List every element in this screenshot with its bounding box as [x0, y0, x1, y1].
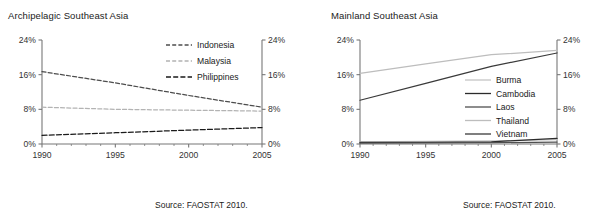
legend-label-cambodia: Cambodia	[496, 89, 535, 99]
chart-title-right: Mainland Southeast Asia	[331, 10, 438, 21]
x-tick-label: 1990	[32, 150, 51, 160]
plot-area-right: 0%0%8%8%16%16%24%24%1990199520002005Burm…	[305, 32, 609, 162]
legend-label-philippines: Philippines	[197, 72, 239, 82]
y-tick-label-left: 24%	[337, 35, 355, 45]
legend-label-malaysia: Malaysia	[197, 56, 231, 66]
legend-label-laos: Laos	[496, 102, 515, 112]
x-tick-label: 1995	[416, 150, 435, 160]
source-note-right: Source: FAOSTAT 2010.	[463, 200, 556, 210]
y-tick-label-right: 16%	[268, 70, 286, 80]
plot-area-left: 0%0%8%8%16%16%24%24%1990199520002005Indo…	[0, 32, 304, 162]
y-tick-label-left: 0%	[24, 139, 37, 149]
x-tick-label: 1995	[106, 150, 125, 160]
x-tick-label: 2000	[482, 150, 501, 160]
y-tick-label-left: 16%	[337, 70, 355, 80]
legend-label-thailand: Thailand	[496, 116, 529, 126]
line-chart-left: 0%0%8%8%16%16%24%24%1990199520002005Indo…	[0, 32, 304, 162]
legend-label-vietnam: Vietnam	[496, 129, 527, 139]
y-tick-label-left: 0%	[342, 139, 355, 149]
y-tick-label-right: 8%	[268, 104, 281, 114]
y-tick-label-right: 24%	[563, 35, 581, 45]
y-tick-label-left: 8%	[342, 104, 355, 114]
chart-panel-mainland: Mainland Southeast Asia 0%0%8%8%16%16%24…	[305, 0, 609, 218]
source-note-left: Source: FAOSTAT 2010.	[155, 200, 248, 210]
x-tick-label: 2005	[547, 150, 566, 160]
y-tick-label-right: 24%	[268, 35, 286, 45]
x-tick-label: 2005	[252, 150, 271, 160]
y-tick-label-left: 8%	[24, 104, 37, 114]
x-tick-label: 2000	[179, 150, 198, 160]
x-tick-label: 1990	[350, 150, 369, 160]
figure-container: Archipelagic Southeast Asia 0%0%8%8%16%1…	[0, 0, 609, 218]
y-tick-label-right: 16%	[563, 70, 581, 80]
series-line-philippines	[42, 128, 262, 136]
chart-panel-archipelagic: Archipelagic Southeast Asia 0%0%8%8%16%1…	[0, 0, 304, 218]
series-line-malaysia	[42, 107, 262, 111]
y-tick-label-right: 0%	[268, 139, 281, 149]
line-chart-right: 0%0%8%8%16%16%24%24%1990199520002005Burm…	[305, 32, 609, 162]
chart-title-left: Archipelagic Southeast Asia	[8, 10, 128, 21]
legend-label-indonesia: Indonesia	[197, 40, 234, 50]
series-line-thailand	[360, 50, 557, 73]
y-tick-label-right: 8%	[563, 104, 576, 114]
legend-label-burma: Burma	[496, 75, 522, 85]
y-tick-label-left: 24%	[19, 35, 37, 45]
y-tick-label-left: 16%	[19, 70, 37, 80]
y-tick-label-right: 0%	[563, 139, 576, 149]
